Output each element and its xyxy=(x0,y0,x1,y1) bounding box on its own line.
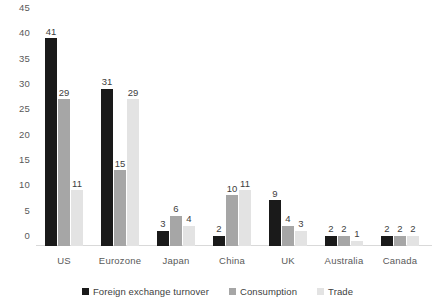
bar-slot: 15 xyxy=(114,18,126,246)
bar-group-bars: 943 xyxy=(269,18,307,246)
legend-swatch-icon xyxy=(82,288,89,295)
y-axis-tick-10: 10 xyxy=(19,179,30,190)
bar-value-label: 11 xyxy=(240,179,250,189)
bar-japan-series-1[interactable] xyxy=(170,216,182,246)
bar-slot: 1 xyxy=(351,18,363,246)
bar-group-bars: 364 xyxy=(157,18,195,246)
bar-slot: 31 xyxy=(101,18,113,246)
y-axis-tick-30: 30 xyxy=(19,78,30,89)
bar-value-label: 2 xyxy=(384,224,389,234)
y-axis-tick-25: 25 xyxy=(19,103,30,114)
bar-slot: 4 xyxy=(282,18,294,246)
y-axis-tick-15: 15 xyxy=(19,154,30,165)
bar-value-label: 2 xyxy=(341,224,346,234)
legend-swatch-icon xyxy=(317,288,324,295)
bar-slot: 2 xyxy=(381,18,393,246)
x-axis-label-australia: Australia xyxy=(325,255,364,266)
bar-value-label: 2 xyxy=(410,224,415,234)
bar-china-series-2[interactable] xyxy=(239,190,251,246)
y-axis-tick-5: 5 xyxy=(25,204,30,215)
bar-slot: 29 xyxy=(127,18,139,246)
bar-group-china: 21011China xyxy=(204,18,260,246)
bar-slot: 29 xyxy=(58,18,70,246)
y-axis-tick-0: 0 xyxy=(25,230,30,241)
bar-group-bars: 21011 xyxy=(213,18,251,246)
bar-slot: 2 xyxy=(394,18,406,246)
bar-value-label: 4 xyxy=(285,214,290,224)
bar-value-label: 2 xyxy=(397,224,402,234)
bar-slot: 11 xyxy=(239,18,251,246)
bar-eurozone-series-2[interactable] xyxy=(127,99,139,246)
bar-slot: 2 xyxy=(325,18,337,246)
bar-value-label: 1 xyxy=(354,229,359,239)
x-axis-label-canada: Canada xyxy=(383,255,417,266)
bar-value-label: 31 xyxy=(102,77,113,87)
bar-slot: 4 xyxy=(183,18,195,246)
bar-group-bars: 222 xyxy=(381,18,419,246)
x-axis-label-japan: Japan xyxy=(163,255,190,266)
bar-japan-series-2[interactable] xyxy=(183,226,195,246)
bar-value-label: 10 xyxy=(227,184,238,194)
chart-legend: Foreign exchange turnoverConsumptionTrad… xyxy=(0,286,435,297)
bar-value-label: 41 xyxy=(46,27,57,37)
bar-china-series-1[interactable] xyxy=(226,195,238,246)
bar-china-series-0[interactable] xyxy=(213,236,225,246)
bar-value-label: 9 xyxy=(272,189,277,199)
bar-value-label: 15 xyxy=(115,159,126,169)
bar-value-label: 11 xyxy=(72,179,82,189)
x-axis-label-china: China xyxy=(219,255,245,266)
bar-group-bars: 221 xyxy=(325,18,363,246)
bar-slot: 41 xyxy=(45,18,57,246)
bar-group-us: 412911US xyxy=(36,18,92,246)
bar-uk-series-1[interactable] xyxy=(282,226,294,246)
bar-australia-series-1[interactable] xyxy=(338,236,350,246)
bar-group-australia: 221Australia xyxy=(316,18,372,246)
y-axis-tick-40: 40 xyxy=(19,27,30,38)
legend-item-2[interactable]: Trade xyxy=(317,286,353,297)
bar-eurozone-series-0[interactable] xyxy=(101,89,113,246)
bar-group-canada: 222Canada xyxy=(372,18,428,246)
bar-value-label: 3 xyxy=(298,219,303,229)
bar-group-bars: 412911 xyxy=(45,18,83,246)
bar-canada-series-0[interactable] xyxy=(381,236,393,246)
bar-uk-series-2[interactable] xyxy=(295,231,307,246)
legend-label: Trade xyxy=(328,286,353,297)
y-axis-tick-45: 45 xyxy=(19,2,30,13)
bar-australia-series-0[interactable] xyxy=(325,236,337,246)
legend-item-0[interactable]: Foreign exchange turnover xyxy=(82,286,209,297)
bar-japan-series-0[interactable] xyxy=(157,231,169,246)
bar-value-label: 29 xyxy=(128,88,139,98)
bar-value-label: 4 xyxy=(186,214,191,224)
x-axis-label-uk: UK xyxy=(281,255,295,266)
bar-value-label: 6 xyxy=(173,204,178,214)
bar-slot: 2 xyxy=(213,18,225,246)
bar-value-label: 2 xyxy=(328,224,333,234)
y-axis-tick-35: 35 xyxy=(19,52,30,63)
bar-canada-series-1[interactable] xyxy=(394,236,406,246)
legend-label: Foreign exchange turnover xyxy=(93,286,209,297)
legend-swatch-icon xyxy=(229,288,236,295)
bar-uk-series-0[interactable] xyxy=(269,200,281,246)
bar-groups: 412911US311529Eurozone364Japan21011China… xyxy=(36,18,428,246)
bar-us-series-0[interactable] xyxy=(45,38,57,246)
bar-slot: 6 xyxy=(170,18,182,246)
bar-slot: 2 xyxy=(338,18,350,246)
bar-slot: 9 xyxy=(269,18,281,246)
bar-eurozone-series-1[interactable] xyxy=(114,170,126,246)
bar-us-series-2[interactable] xyxy=(71,190,83,246)
legend-label: Consumption xyxy=(240,286,297,297)
bar-us-series-1[interactable] xyxy=(58,99,70,246)
y-axis-tick-20: 20 xyxy=(19,128,30,139)
bar-group-japan: 364Japan xyxy=(148,18,204,246)
bar-slot: 3 xyxy=(157,18,169,246)
bar-canada-series-2[interactable] xyxy=(407,236,419,246)
legend-item-1[interactable]: Consumption xyxy=(229,286,297,297)
bar-slot: 10 xyxy=(226,18,238,246)
bar-value-label: 2 xyxy=(216,224,221,234)
bar-group-eurozone: 311529Eurozone xyxy=(92,18,148,246)
bar-value-label: 29 xyxy=(59,88,70,98)
bar-australia-series-2[interactable] xyxy=(351,241,363,246)
bar-group-bars: 311529 xyxy=(101,18,139,246)
plot-area: 051015202530354045 412911US311529Eurozon… xyxy=(36,18,428,246)
bar-slot: 3 xyxy=(295,18,307,246)
